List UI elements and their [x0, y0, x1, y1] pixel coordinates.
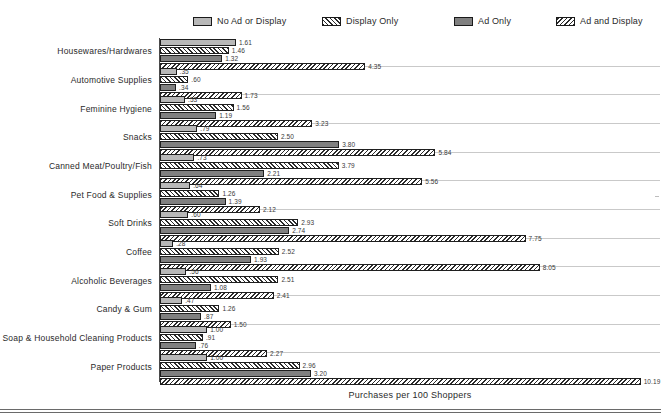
bar-value-label-ad-only-coffee: 1.93	[254, 255, 267, 264]
bar-ad-only-canned-meat-poultry-fish[interactable]	[160, 170, 264, 177]
bar-no-ad-or-display-feminine-hygiene[interactable]	[160, 96, 185, 103]
bar-no-ad-or-display-housewares-hardwares[interactable]	[160, 39, 236, 46]
bar-no-ad-or-display-soap-household-cleaning-products[interactable]	[160, 326, 207, 333]
bar-line-no-ad-or-display: 1.00	[160, 354, 660, 361]
bar-display-only-pet-food-supplies[interactable]	[160, 190, 219, 197]
legend-label-ad-and-display: Ad and Display	[580, 16, 643, 26]
bar-display-only-paper-products[interactable]	[160, 362, 300, 369]
bar-no-ad-or-display-soft-drinks[interactable]	[160, 211, 188, 218]
bar-line-no-ad-or-display: .73	[160, 154, 660, 161]
bar-ad-only-housewares-hardwares[interactable]	[160, 55, 222, 62]
y-axis-label-housewares-hardwares: Housewares/Hardwares	[57, 46, 152, 56]
bar-value-label-display-only-coffee: 2.52	[282, 247, 295, 256]
bar-line-display-only: .91	[160, 334, 660, 341]
legend-swatch-icon-ad-only	[454, 17, 473, 26]
bar-display-only-alcoholic-beverages[interactable]	[160, 276, 278, 283]
bar-value-label-ad-only-alcoholic-beverages: 1.08	[214, 283, 227, 292]
y-axis-label-soft-drinks: Soft Drinks	[108, 218, 152, 228]
legend-item-no-ad-or-display: No Ad or Display	[193, 14, 286, 28]
bar-line-ad-only: 1.93	[160, 256, 660, 263]
bar-ad-only-alcoholic-beverages[interactable]	[160, 284, 211, 291]
bar-display-only-automotive-supplies[interactable]	[160, 76, 188, 83]
bar-no-ad-or-display-alcoholic-beverages[interactable]	[160, 268, 186, 275]
bar-group-pet-food-supplies: .641.261.392.12	[160, 181, 660, 210]
bar-no-ad-or-display-automotive-supplies[interactable]	[160, 68, 177, 75]
bar-line-ad-only: 2.21	[160, 170, 660, 177]
bar-display-only-feminine-hygiene[interactable]	[160, 104, 234, 111]
bar-group-canned-meat-poultry-fish: .733.792.215.56	[160, 153, 660, 182]
bar-display-only-soft-drinks[interactable]	[160, 219, 298, 226]
bar-ad-only-coffee[interactable]	[160, 256, 251, 263]
bar-value-label-no-ad-or-display-soft-drinks: .60	[191, 210, 200, 219]
bar-ad-only-pet-food-supplies[interactable]	[160, 198, 226, 205]
bar-line-display-only: 1.56	[160, 104, 660, 111]
bar-ad-only-automotive-supplies[interactable]	[160, 84, 176, 91]
bar-value-label-ad-only-snacks: 3.80	[342, 140, 355, 149]
bar-value-label-display-only-canned-meat-poultry-fish: 3.79	[342, 161, 355, 170]
bar-value-label-no-ad-or-display-candy-gum: .47	[185, 296, 194, 305]
y-axis-label-paper-products: Paper Products	[91, 362, 152, 372]
bar-value-label-display-only-alcoholic-beverages: 2.51	[281, 275, 294, 284]
bar-line-no-ad-or-display: .56	[160, 268, 660, 275]
y-axis-label-pet-food-supplies: Pet Food & Supplies	[71, 190, 152, 200]
bar-line-ad-only: 1.19	[160, 112, 660, 119]
bar-line-no-ad-or-display: .60	[160, 211, 660, 218]
bar-line-ad-only: 3.80	[160, 141, 660, 148]
bar-value-label-ad-only-automotive-supplies: .34	[179, 83, 188, 92]
bar-display-only-housewares-hardwares[interactable]	[160, 47, 229, 54]
bar-ad-only-soap-household-cleaning-products[interactable]	[160, 342, 196, 349]
bar-value-label-ad-only-soap-household-cleaning-products: .76	[199, 341, 208, 350]
bar-line-no-ad-or-display: .64	[160, 182, 660, 189]
bar-line-no-ad-or-display: .28	[160, 240, 660, 247]
bar-value-label-ad-only-pet-food-supplies: 1.39	[229, 197, 242, 206]
y-axis-label-alcoholic-beverages: Alcoholic Beverages	[71, 276, 152, 286]
bar-value-label-ad-and-display-paper-products: 10.19	[644, 377, 661, 386]
bar-display-only-snacks[interactable]	[160, 133, 278, 140]
bar-line-no-ad-or-display: 1.00	[160, 326, 660, 333]
legend-label-ad-only: Ad Only	[478, 16, 511, 26]
bar-value-label-no-ad-or-display-coffee: .28	[176, 239, 185, 248]
bar-display-only-candy-gum[interactable]	[160, 305, 219, 312]
bar-display-only-coffee[interactable]	[160, 248, 279, 255]
bar-line-ad-only: 2.74	[160, 227, 660, 234]
y-axis-label-candy-gum: Candy & Gum	[96, 304, 152, 314]
right-margin-tick	[655, 196, 659, 197]
bar-value-label-ad-only-housewares-hardwares: 1.32	[225, 54, 238, 63]
bar-line-ad-only: 1.39	[160, 198, 660, 205]
bar-line-display-only: 2.96	[160, 362, 660, 369]
bar-no-ad-or-display-canned-meat-poultry-fish[interactable]	[160, 154, 194, 161]
bar-line-no-ad-or-display: .47	[160, 297, 660, 304]
legend-swatch-icon-display-only	[322, 17, 341, 26]
bar-no-ad-or-display-pet-food-supplies[interactable]	[160, 182, 190, 189]
bar-group-snacks: .792.503.805.84	[160, 124, 660, 153]
bar-no-ad-or-display-snacks[interactable]	[160, 125, 197, 132]
legend-label-no-ad-or-display: No Ad or Display	[217, 16, 286, 26]
bar-display-only-soap-household-cleaning-products[interactable]	[160, 334, 203, 341]
bar-ad-only-candy-gum[interactable]	[160, 313, 201, 320]
bar-ad-only-soft-drinks[interactable]	[160, 227, 289, 234]
bar-value-label-no-ad-or-display-snacks: .79	[200, 124, 209, 133]
bar-line-no-ad-or-display: .35	[160, 68, 660, 75]
bar-value-label-no-ad-or-display-automotive-supplies: .35	[180, 67, 189, 76]
bar-no-ad-or-display-coffee[interactable]	[160, 240, 173, 247]
bar-group-automotive-supplies: .35.60.341.73	[160, 67, 660, 96]
bar-ad-only-feminine-hygiene[interactable]	[160, 112, 216, 119]
y-axis-label-canned-meat-poultry-fish: Canned Meat/Poultry/Fish	[49, 161, 152, 171]
bar-no-ad-or-display-paper-products[interactable]	[160, 354, 207, 361]
bar-line-ad-and-display: 10.19	[160, 378, 660, 385]
bar-line-display-only: 2.50	[160, 133, 660, 140]
bar-ad-and-display-paper-products[interactable]	[160, 378, 641, 385]
bar-ad-only-snacks[interactable]	[160, 141, 339, 148]
bar-display-only-canned-meat-poultry-fish[interactable]	[160, 162, 339, 169]
legend-item-ad-and-display: Ad and Display	[556, 14, 643, 28]
y-axis-label-coffee: Coffee	[126, 247, 152, 257]
bar-line-ad-only: .76	[160, 342, 660, 349]
legend-label-display-only: Display Only	[346, 16, 398, 26]
bar-line-display-only: 1.26	[160, 190, 660, 197]
bar-value-label-no-ad-or-display-alcoholic-beverages: .56	[189, 267, 198, 276]
bar-value-label-ad-only-paper-products: 3.20	[314, 369, 327, 378]
bar-group-housewares-hardwares: 1.611.461.324.35	[160, 38, 660, 67]
bar-no-ad-or-display-candy-gum[interactable]	[160, 297, 182, 304]
bar-ad-only-paper-products[interactable]	[160, 370, 311, 377]
bar-line-display-only: 3.79	[160, 162, 660, 169]
